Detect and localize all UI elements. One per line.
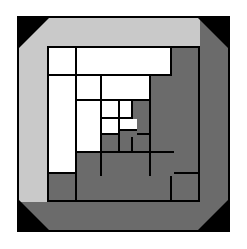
ring-2-bottom-dark (77, 153, 174, 176)
ring-2-seam-horizontal-bottom (77, 151, 174, 153)
center-square-seam (120, 129, 137, 131)
quilt-block (17, 16, 230, 232)
outer-band-left-light (19, 18, 47, 230)
outer-band-bottom-dark (19, 202, 228, 230)
ring-3-bottom-dark (102, 135, 149, 151)
corner-triangle-top-right-icon (198, 18, 228, 48)
center-square-dark (120, 130, 137, 137)
corner-triangle-top-left-icon (19, 18, 49, 48)
corner-triangle-bottom-right-icon (198, 200, 228, 230)
ring-1-bottom-dark (49, 174, 198, 200)
center-square-layer (120, 119, 137, 137)
ring-2-seam-vertical-right (149, 76, 151, 176)
corner-triangle-bottom-left-icon (19, 200, 49, 230)
image-canvas (0, 0, 247, 249)
outer-band-top-light (19, 18, 228, 46)
outer-band-right-dark (200, 18, 228, 230)
